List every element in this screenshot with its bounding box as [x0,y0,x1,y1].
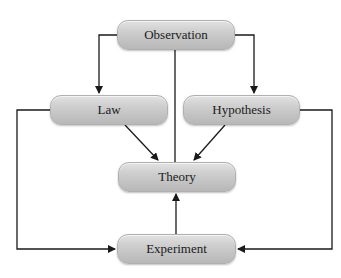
edge-observation-hypothesis [235,35,254,93]
node-law-label: Law [97,102,120,118]
node-hypothesis: Hypothesis [183,95,300,125]
node-experiment: Experiment [117,234,236,264]
edge-law-experiment [17,110,115,249]
node-theory: Theory [118,162,236,192]
node-theory-label: Theory [158,169,196,185]
edge-law-theory [125,125,158,160]
node-observation: Observation [117,20,235,50]
edge-observation-law [99,35,117,93]
edge-hypothesis-experiment [238,110,332,249]
edge-hypothesis-theory [194,125,225,160]
node-experiment-label: Experiment [146,241,207,257]
node-law: Law [50,95,168,125]
node-hypothesis-label: Hypothesis [212,102,271,118]
node-observation-label: Observation [144,27,208,43]
